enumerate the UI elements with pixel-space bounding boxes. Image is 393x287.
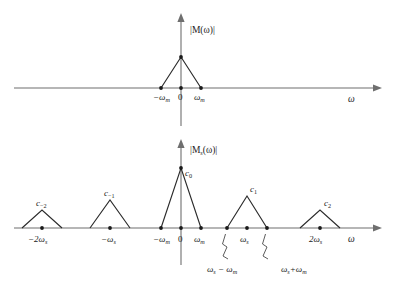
xtick-2ws-sub: s	[320, 238, 323, 245]
bottom-panel-y-axis	[177, 139, 184, 265]
bottom-xtick-label-neg-wm: −ωm	[153, 234, 170, 245]
xtick-neg-2ws-main: −2ω	[28, 234, 45, 244]
annotation-ws-plus-wm: ωs+ωm	[281, 264, 307, 275]
bottom-tick-dot-pos-wm	[199, 226, 203, 230]
top-y-label-text: |M(ω)|	[190, 25, 215, 36]
bottom-panel-x-axis-label: ω	[348, 234, 355, 244]
replica-triangle-c-minus-2	[22, 210, 62, 228]
replica-triangle-c-1	[227, 196, 267, 228]
top-panel-x-axis	[14, 84, 382, 91]
c-1-sub: 1	[254, 188, 257, 195]
xtick-neg-ws-sub: s	[113, 238, 116, 245]
top-xtick-pos-wm-sub: m	[200, 96, 205, 103]
bottom-xtick-label-zero: 0	[178, 234, 183, 244]
annotation-ws-minus-wm: ωs − ωm	[207, 264, 238, 275]
bottom-panel-y-axis-label: |Ms(ω)|	[190, 145, 217, 156]
coefficient-label-c-0: c0	[185, 168, 192, 179]
top-panel-y-axis-label: |M(ω)|	[190, 25, 215, 36]
coefficient-label-c-2: c2	[324, 198, 331, 209]
xtick-2ws-main: 2ω	[309, 234, 320, 244]
coefficient-label-c-minus-1: c−1	[104, 188, 115, 199]
c-minus-2-sub: −2	[40, 202, 47, 209]
coefficient-label-c-1: c1	[250, 184, 257, 195]
top-xtick-label-zero: 0	[178, 92, 183, 102]
bottom-panel: |Ms(ω)| c−2 c−1 c0 c1 c	[14, 139, 382, 275]
xtick-neg-2ws-sub: s	[45, 238, 48, 245]
bottom-tick-dot-2ws	[318, 226, 322, 230]
top-xtick-neg-wm-main: −ω	[153, 92, 165, 102]
top-tick-dot-pos-wm	[199, 86, 203, 90]
bottom-x-label-text: ω	[348, 234, 355, 244]
ann-ws-minus-wm-sub2: m	[233, 268, 238, 275]
c-0-sub: 0	[189, 172, 192, 179]
top-tick-dot-zero	[179, 86, 183, 90]
top-xtick-label-neg-wm: −ωm	[153, 92, 170, 103]
top-apex-dot	[179, 55, 183, 59]
top-xtick-neg-wm-sub: m	[165, 96, 170, 103]
top-panel: |M(ω)| −ωm 0 ωm ω	[14, 13, 382, 126]
xtick-zero-main: 0	[178, 234, 183, 244]
bottom-xtick-label-neg-2ws: −2ωs	[28, 234, 48, 245]
top-panel-y-axis	[177, 13, 184, 126]
xtick-pos-wm-sub: m	[200, 238, 205, 245]
coefficient-label-c-minus-2: c−2	[36, 198, 47, 209]
bottom-tick-dot-ws-plus-wm	[265, 226, 269, 230]
bottom-tick-dot-neg-wm	[159, 226, 163, 230]
bottom-y-label-main: |M	[190, 145, 201, 155]
bottom-xtick-label-pos-wm: ωm	[194, 234, 205, 245]
top-x-label-text: ω	[348, 94, 355, 104]
bottom-tick-dot-zero	[179, 226, 183, 230]
bottom-xtick-label-2ws: 2ωs	[309, 234, 323, 245]
bottom-panel-x-axis	[14, 224, 382, 231]
replica-triangle-c-2	[300, 210, 340, 228]
ann-ws-minus-wm-op: −	[216, 264, 227, 274]
leader-line-ws-minus-wm	[223, 234, 229, 259]
bottom-tick-dot-neg-ws	[108, 226, 112, 230]
c-2-sub: 2	[328, 202, 331, 209]
xtick-neg-wm-sub: m	[165, 238, 170, 245]
leader-line-ws-plus-wm	[263, 234, 269, 259]
top-panel-x-axis-label: ω	[348, 94, 355, 104]
replica-triangle-c-minus-1	[90, 200, 130, 228]
signal-spectra-figure: |M(ω)| −ωm 0 ωm ω	[0, 0, 393, 287]
ann-ws-plus-wm-sub2: m	[302, 268, 307, 275]
bottom-tick-dot-ws-minus-wm	[225, 226, 229, 230]
c-minus-1-sub: −1	[108, 192, 115, 199]
top-xtick-zero-main: 0	[178, 92, 183, 102]
xtick-neg-ws-main: −ω	[101, 234, 113, 244]
top-xtick-label-pos-wm: ωm	[194, 92, 205, 103]
bottom-apex-dot-c0	[179, 166, 183, 170]
top-tick-dot-neg-wm	[159, 86, 163, 90]
bottom-tick-dot-ws	[245, 226, 249, 230]
xtick-neg-wm-main: −ω	[153, 234, 165, 244]
xtick-ws-sub: s	[246, 238, 249, 245]
bottom-xtick-label-neg-ws: −ωs	[101, 234, 116, 245]
bottom-y-label-tail: (ω)|	[203, 145, 218, 156]
bottom-tick-dot-neg-2ws	[40, 226, 44, 230]
bottom-xtick-label-ws: ωs	[240, 234, 249, 245]
